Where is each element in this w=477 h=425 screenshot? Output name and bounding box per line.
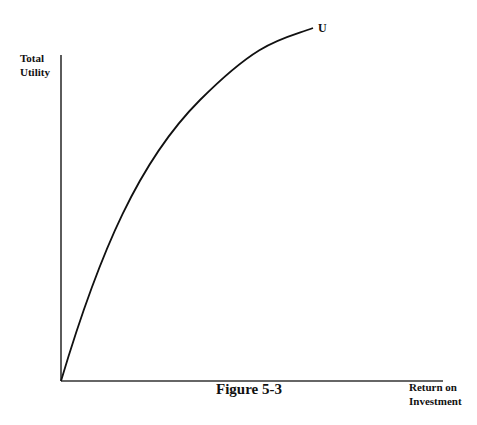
chart-canvas [0, 0, 477, 425]
x-label-line1: Return on [409, 380, 462, 394]
figure-title: Figure 5-3 [216, 382, 282, 396]
y-axis-label: Total Utility [20, 51, 50, 79]
x-axis-label: Return on Investment [409, 380, 462, 408]
x-label-line2: Investment [409, 394, 462, 408]
utility-curve [61, 28, 313, 381]
curve-label: U [318, 21, 327, 35]
y-label-line2: Utility [20, 65, 50, 79]
y-label-line1: Total [20, 51, 50, 65]
